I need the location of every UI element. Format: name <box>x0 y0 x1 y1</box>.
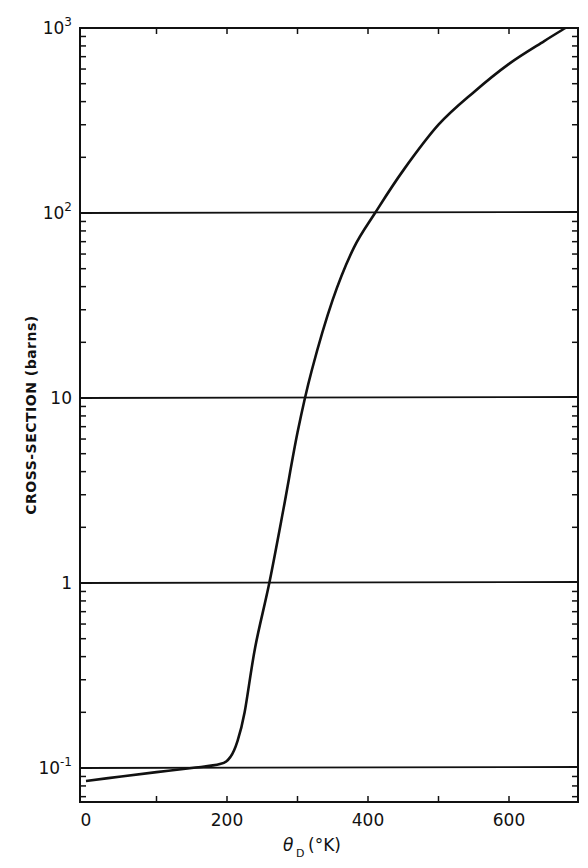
y-tick-label: 10 <box>50 388 72 408</box>
x-axis-title-symbol: θ <box>283 835 294 855</box>
cross-section-chart: 020040060010-1110102103 CROSS-SECTION (b… <box>0 0 588 868</box>
x-tick-label: 200 <box>211 810 243 830</box>
y-axis-title: CROSS-SECTION (barns) <box>23 315 39 514</box>
gridline-horizontal <box>80 212 578 213</box>
gridline-horizontal <box>80 767 578 768</box>
y-tick-label: 102 <box>43 200 72 223</box>
gridline-horizontal <box>80 397 578 398</box>
x-tick-label: 400 <box>352 810 384 830</box>
plot-area <box>80 28 578 781</box>
gridline-horizontal <box>80 582 578 583</box>
axes: 020040060010-1110102103 <box>38 15 578 830</box>
x-tick-label: 600 <box>493 810 525 830</box>
y-tick-label: 10-1 <box>38 755 72 778</box>
y-tick-label: 1 <box>61 573 72 593</box>
plot-frame <box>80 28 578 802</box>
x-axis-title: θ D (°K) <box>283 835 341 860</box>
y-tick-label: 103 <box>43 15 72 38</box>
x-axis-title-subscript: D <box>296 847 304 860</box>
x-axis-title-unit: (°K) <box>308 835 341 855</box>
data-curve <box>86 28 565 781</box>
x-tick-label: 0 <box>81 810 92 830</box>
